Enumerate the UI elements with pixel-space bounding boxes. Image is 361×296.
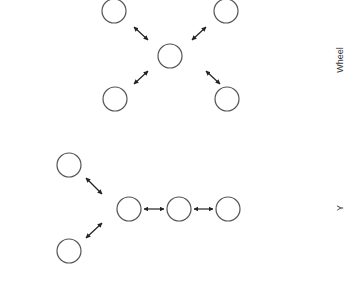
node-circle [102,0,126,23]
node-circle [158,44,182,68]
node-circle [214,0,238,23]
bidirectional-arrow [134,71,148,84]
diagram-canvas [0,0,361,296]
bidirectional-arrow [192,27,206,40]
wheel-diagram [102,0,239,111]
bidirectional-arrow [86,223,102,238]
y-diagram [57,153,240,263]
node-circle [117,197,141,221]
y-label: Y [335,205,345,211]
node-circle [167,197,191,221]
wheel-label: Wheel [335,47,345,73]
node-circle [103,87,127,111]
bidirectional-arrow [86,178,102,194]
node-circle [57,239,81,263]
node-circle [57,153,81,177]
bidirectional-arrow [134,27,148,40]
node-circle [215,87,239,111]
node-circle [216,197,240,221]
bidirectional-arrow [206,71,220,84]
